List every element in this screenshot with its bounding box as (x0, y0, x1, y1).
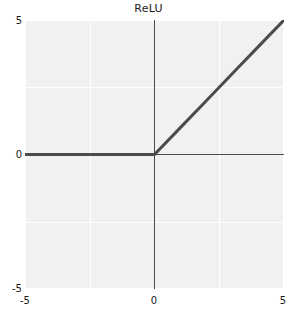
x-tick-label-right: 5 (271, 295, 295, 306)
y-tick-label-zero: 0 (2, 149, 22, 160)
plot-area (25, 20, 284, 289)
relu-curve-path (25, 20, 284, 155)
relu-curve (25, 20, 284, 289)
y-tick-label-bottom: -5 (2, 283, 22, 294)
chart-figure: ReLU 5 0 -5 -5 0 5 (0, 0, 297, 315)
chart-title: ReLU (0, 2, 297, 15)
x-tick-label-zero: 0 (142, 295, 166, 306)
x-tick-label-left: -5 (13, 295, 37, 306)
y-tick-label-top: 5 (2, 15, 22, 26)
